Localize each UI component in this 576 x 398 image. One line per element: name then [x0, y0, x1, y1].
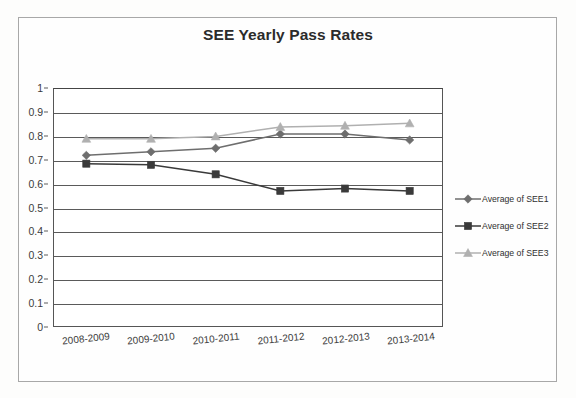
y-axis-tick-mark: [44, 135, 48, 136]
y-axis-tick-label: 0.6: [28, 178, 43, 190]
plot-area: [53, 88, 443, 327]
y-axis-tick-mark: [44, 88, 48, 89]
legend-item-1[interactable]: Average of SEE1: [455, 188, 555, 209]
y-axis-tick-mark: [44, 255, 48, 256]
series-line: [86, 123, 409, 138]
series-3: [82, 119, 414, 142]
y-axis-tick-mark: [44, 327, 48, 328]
y-axis-tick-mark: [44, 303, 48, 304]
chart-legend: Average of SEE1Average of SEE2Average of…: [455, 188, 555, 269]
data-point-marker: [341, 130, 349, 138]
data-point-marker: [212, 171, 219, 178]
data-point-marker: [406, 187, 413, 194]
legend-item-label: Average of SEE1: [482, 194, 549, 204]
series-1: [82, 130, 414, 160]
data-point-marker: [464, 222, 471, 229]
data-point-marker: [277, 187, 284, 194]
x-axis-tick-label: 2013-2014: [386, 331, 435, 347]
x-axis-tick-label: 2012-2013: [321, 331, 370, 347]
y-axis-tick-label: 0.8: [28, 130, 43, 142]
y-axis-tick-mark: [44, 207, 48, 208]
legend-item-3[interactable]: Average of SEE3: [455, 242, 555, 263]
x-axis-tick-label: 2010-2011: [192, 331, 240, 347]
data-point-marker: [405, 136, 413, 144]
y-axis-tick-label: 0.5: [28, 202, 43, 214]
x-axis-tick-label: 2008-2009: [61, 331, 110, 347]
y-axis: 10.90.80.70.60.50.40.30.20.10: [14, 88, 48, 327]
data-point-marker: [147, 148, 155, 156]
data-point-marker: [464, 194, 472, 202]
series-line: [86, 164, 409, 191]
triangle-marker-icon: [455, 246, 481, 260]
y-axis-tick-mark: [44, 183, 48, 184]
series-line: [86, 134, 409, 155]
diamond-marker-icon: [455, 192, 481, 206]
data-point-marker: [211, 144, 219, 152]
page-title: SEE Yearly Pass Rates: [0, 26, 576, 44]
plot-svg: [54, 89, 442, 326]
square-marker-icon: [455, 219, 481, 233]
legend-item-2[interactable]: Average of SEE2: [455, 215, 555, 236]
data-point-marker: [341, 185, 348, 192]
y-axis-tick-mark: [44, 159, 48, 160]
y-axis-tick-label: 0.4: [28, 225, 43, 237]
legend-item-label: Average of SEE2: [482, 221, 549, 231]
y-axis-tick-mark: [44, 231, 48, 232]
series-2: [83, 160, 413, 194]
y-axis-tick-label: 0.3: [28, 249, 43, 261]
data-point-marker: [147, 161, 154, 168]
y-axis-tick-mark: [44, 111, 48, 112]
data-point-marker: [276, 130, 284, 138]
data-point-marker: [82, 151, 90, 159]
y-axis-tick-label: 0.7: [28, 154, 43, 166]
y-axis-tick-mark: [44, 279, 48, 280]
y-axis-tick-label: 0.1: [28, 297, 43, 309]
y-axis-tick-label: 0.9: [28, 106, 43, 118]
legend-item-label: Average of SEE3: [482, 248, 549, 258]
data-point-marker: [83, 160, 90, 167]
y-axis-tick-label: 1: [37, 82, 43, 94]
x-axis: 2008-20092009-20102010-20112011-20122012…: [53, 331, 443, 359]
x-axis-tick-label: 2009-2010: [126, 331, 175, 347]
y-axis-tick-label: 0.2: [28, 273, 43, 285]
x-axis-tick-label: 2011-2012: [257, 331, 305, 347]
y-axis-tick-label: 0: [37, 321, 43, 333]
